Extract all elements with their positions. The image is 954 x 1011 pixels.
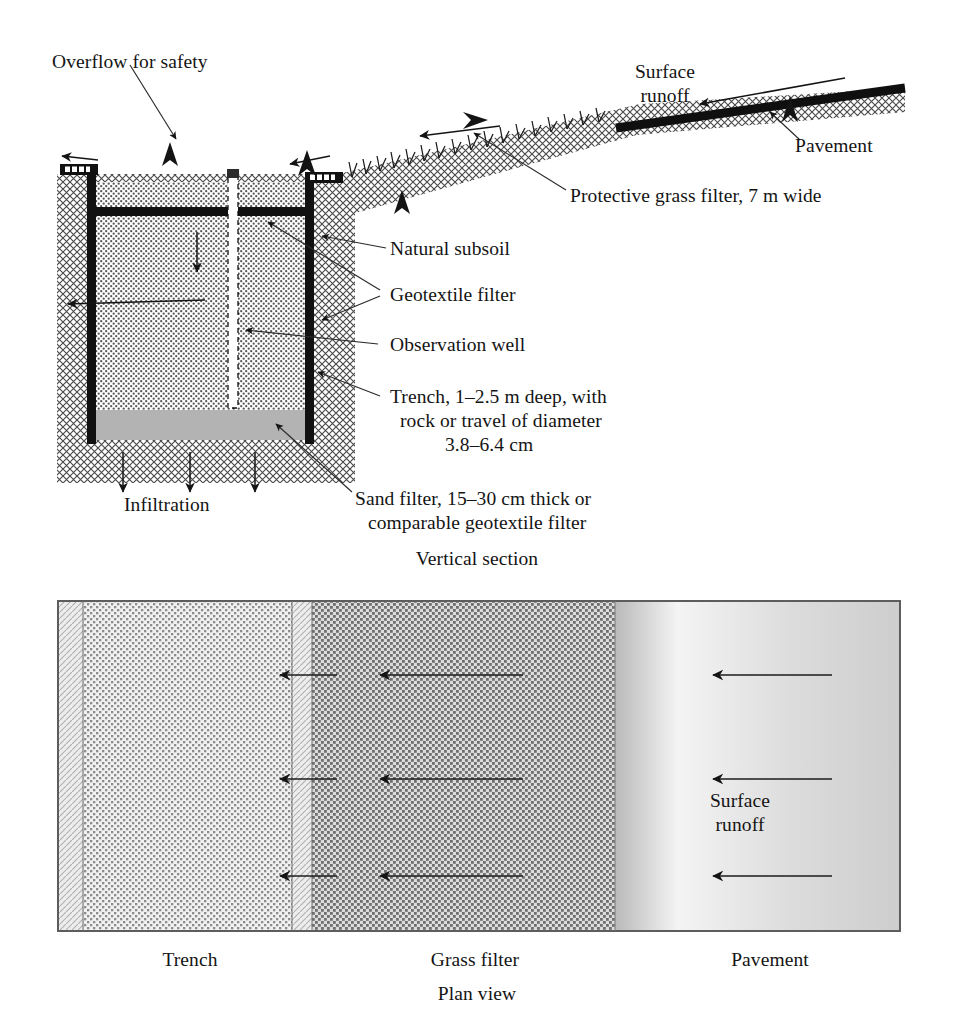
- label-geotextile-filter: Geotextile filter: [390, 283, 516, 307]
- overflow-pipe-right: [305, 172, 343, 183]
- plan-view-graphic: [58, 601, 900, 931]
- overflow-pipe-left: [60, 164, 98, 175]
- sand-filter-layer: [92, 410, 311, 440]
- label-protective-grass-filter: Protective grass filter, 7 m wide: [570, 184, 822, 208]
- plan-zone-label-grass-filter: Grass filter: [395, 948, 555, 972]
- observation-well: [227, 169, 239, 408]
- label-sand-filter-line1: Sand filter, 15–30 cm thick or: [355, 487, 591, 511]
- plan-zone-grass-filter: [312, 601, 615, 931]
- label-trench-line1: Trench, 1–2.5 m deep, with: [390, 385, 607, 409]
- label-sand-filter-line2: comparable geotextile filter: [368, 511, 586, 535]
- label-natural-subsoil: Natural subsoil: [390, 237, 510, 261]
- plan-zone-pavement: [615, 601, 900, 931]
- label-surface-runoff-section: Surface runoff: [590, 60, 740, 108]
- label-infiltration: Infiltration: [124, 493, 210, 517]
- caption-plan-view: Plan view: [412, 982, 542, 1006]
- plan-zone-trench: [83, 601, 292, 931]
- plan-zone-label-trench: Trench: [120, 948, 260, 972]
- plan-zone-margin-left: [58, 601, 83, 931]
- caption-vertical-section: Vertical section: [377, 547, 577, 571]
- figure-root: Overflow for safety Surface runoff Pavem…: [0, 0, 954, 1011]
- label-trench-line3: 3.8–6.4 cm: [445, 433, 533, 457]
- plan-zone-label-pavement: Pavement: [700, 948, 840, 972]
- plan-zone-gap: [292, 601, 312, 931]
- trench-aggregate-fill: [92, 182, 311, 440]
- label-observation-well: Observation well: [390, 333, 525, 357]
- label-pavement-section: Pavement: [795, 134, 873, 158]
- label-trench-line2: rock or travel of diameter: [400, 409, 602, 433]
- label-surface-runoff-plan: Surface runoff: [680, 789, 800, 837]
- label-overflow-for-safety: Overflow for safety: [52, 50, 208, 74]
